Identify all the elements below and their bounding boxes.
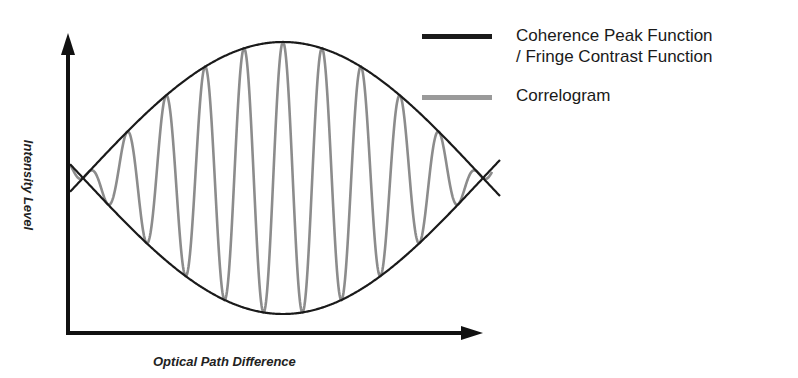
legend-swatch-envelope	[422, 34, 492, 39]
correlogram-series	[70, 42, 492, 312]
legend-label-envelope: Coherence Peak Function / Fringe Contras…	[516, 25, 713, 67]
x-axis-arrow-icon	[461, 326, 483, 340]
y-axis-arrow-icon	[61, 33, 75, 55]
envelope-lower-line	[70, 160, 500, 314]
y-axis-label: Intensity Level	[21, 140, 36, 230]
legend-swatch-correlogram	[422, 95, 492, 100]
x-axis-label: Optical Path Difference	[153, 354, 296, 369]
envelope-upper-line	[70, 42, 500, 196]
legend-label-correlogram: Correlogram	[516, 85, 610, 106]
envelope-series	[70, 42, 500, 314]
correlogram-line	[70, 42, 492, 312]
